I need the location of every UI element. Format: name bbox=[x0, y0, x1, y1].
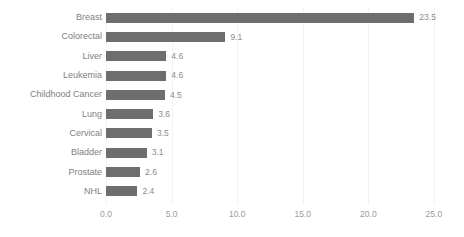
bar-value-label: 3.6 bbox=[158, 110, 170, 119]
bar-value-label: 2.6 bbox=[145, 168, 157, 177]
bar bbox=[106, 128, 152, 138]
bar-row: 4.5 bbox=[106, 85, 434, 104]
bar bbox=[106, 13, 414, 23]
gridline bbox=[434, 8, 435, 204]
bar-value-label: 4.5 bbox=[170, 91, 182, 100]
bar bbox=[106, 167, 140, 177]
plot-area: 23.5 9.1 4.6 4.6 4.5 3.6 bbox=[106, 8, 434, 204]
category-label: Bladder bbox=[71, 143, 102, 162]
bar bbox=[106, 148, 147, 158]
bar-row: 4.6 bbox=[106, 47, 434, 66]
bar bbox=[106, 186, 137, 196]
bar-row: 3.5 bbox=[106, 124, 434, 143]
category-label: Lung bbox=[82, 105, 102, 124]
bar-row: 23.5 bbox=[106, 8, 434, 27]
x-tick-label: 5.0 bbox=[166, 210, 178, 219]
category-label: NHL bbox=[84, 182, 102, 201]
bar bbox=[106, 32, 225, 42]
x-tick-label: 25.0 bbox=[426, 210, 443, 219]
bar-row: 9.1 bbox=[106, 27, 434, 46]
bar-row: 2.6 bbox=[106, 162, 434, 181]
bar-value-label: 3.5 bbox=[157, 129, 169, 138]
bar-value-label: 4.6 bbox=[171, 52, 183, 61]
bar-value-label: 2.4 bbox=[142, 187, 154, 196]
bar-row: 4.6 bbox=[106, 66, 434, 85]
bar bbox=[106, 90, 165, 100]
bar-series: 23.5 9.1 4.6 4.6 4.5 3.6 bbox=[106, 8, 434, 204]
category-label: Liver bbox=[82, 47, 102, 66]
bar-value-label: 3.1 bbox=[152, 148, 164, 157]
bar-chart: Breast Colorectal Liver Leukemia Childho… bbox=[0, 0, 464, 237]
category-label: Colorectal bbox=[61, 27, 102, 46]
bar bbox=[106, 71, 166, 81]
category-label: Prostate bbox=[68, 162, 102, 181]
x-tick-label: 20.0 bbox=[360, 210, 377, 219]
bar bbox=[106, 51, 166, 61]
x-tick-label: 10.0 bbox=[229, 210, 246, 219]
bar-value-label: 23.5 bbox=[419, 13, 436, 22]
bar-row: 3.1 bbox=[106, 143, 434, 162]
category-label: Cervical bbox=[69, 124, 102, 143]
category-axis-labels: Breast Colorectal Liver Leukemia Childho… bbox=[0, 8, 102, 204]
category-label: Breast bbox=[76, 8, 102, 27]
bar-value-label: 4.6 bbox=[171, 71, 183, 80]
x-tick-label: 15.0 bbox=[295, 210, 312, 219]
bar-row: 2.4 bbox=[106, 182, 434, 201]
category-label: Childhood Cancer bbox=[30, 85, 102, 104]
bar-row: 3.6 bbox=[106, 105, 434, 124]
category-label: Leukemia bbox=[63, 66, 102, 85]
x-tick-label: 0.0 bbox=[100, 210, 112, 219]
x-axis: 0.0 5.0 10.0 15.0 20.0 25.0 bbox=[106, 206, 434, 228]
bar bbox=[106, 109, 153, 119]
bar-value-label: 9.1 bbox=[230, 33, 242, 42]
